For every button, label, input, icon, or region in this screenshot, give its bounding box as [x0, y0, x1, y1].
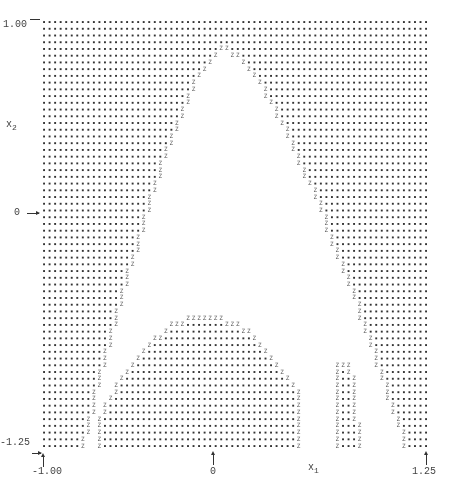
x-zero-arrow-icon	[213, 453, 214, 465]
y-tick-bottom: -1.25	[0, 437, 30, 448]
x-axis-label-sub: 1	[314, 466, 319, 475]
y-bottom-arrow-icon	[32, 453, 41, 454]
y-tick-top: 1.00	[3, 19, 27, 30]
x-right-arrow-icon	[426, 453, 427, 465]
y-axis-label: x2	[6, 119, 17, 130]
x-tick-zero: 0	[210, 466, 216, 477]
x-axis-label: x1	[308, 462, 319, 473]
top-tick-mark	[30, 19, 40, 20]
x-tick-left: -1.00	[32, 466, 62, 477]
x-tick-right: 1.25	[412, 466, 436, 477]
dot-grid	[0, 0, 449, 489]
plot-area: 1.00 x2 0 -1.25 -1.00 0 x1 1.25	[0, 0, 449, 489]
y-tick-zero: 0	[14, 207, 20, 218]
y-zero-arrow-icon	[27, 213, 39, 214]
y-axis-label-sub: 2	[12, 123, 17, 132]
